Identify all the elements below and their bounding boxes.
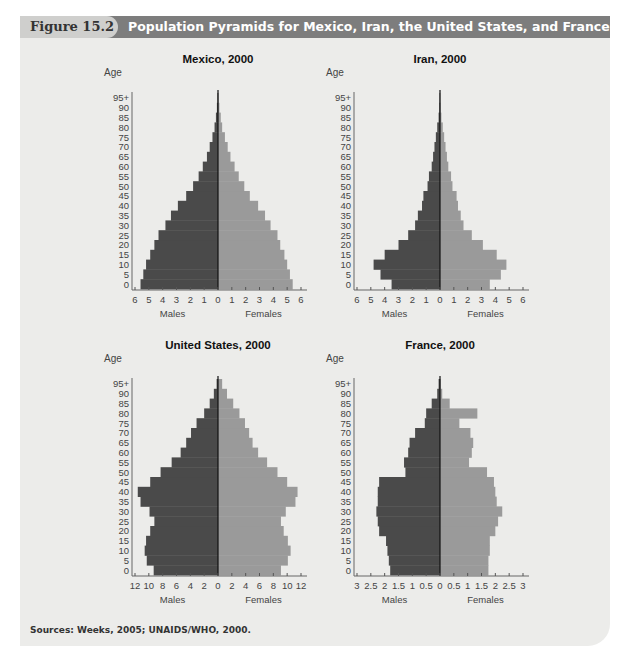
figure-label: Figure 15.2 (20, 16, 118, 38)
figure-title: Population Pyramids for Mexico, Iran, th… (128, 16, 610, 38)
age-tick-label: 50 (118, 467, 129, 478)
age-tick-label: 15 (340, 249, 351, 260)
female-bar (218, 142, 228, 152)
x-tick-label: 0 (215, 294, 220, 305)
male-bar (150, 526, 218, 536)
age-tick-label: 5 (124, 555, 129, 566)
male-bar (408, 448, 440, 458)
female-bar (440, 260, 506, 270)
male-bar (141, 497, 218, 507)
female-bar (440, 201, 458, 211)
age-tick-label: 30 (118, 506, 129, 517)
male-bar (210, 399, 218, 409)
age-tick-label: 60 (340, 161, 351, 172)
chart-mexico: Mexico, 2000Age0510152025303540455055606… (100, 48, 315, 324)
male-bar (146, 536, 218, 546)
female-bar (218, 279, 293, 289)
females-axis-label: Females (245, 594, 282, 605)
female-bar (440, 230, 472, 240)
x-tick-label: 0 (437, 580, 442, 591)
x-tick-label: 2 (410, 294, 415, 305)
female-bar (218, 408, 239, 418)
x-tick-label: 6 (257, 580, 262, 591)
y-axis-label: Age (104, 67, 122, 78)
x-tick-label: 8 (160, 580, 165, 591)
x-tick-label: 6 (520, 294, 525, 305)
age-tick-label: 50 (340, 467, 351, 478)
female-bar (218, 201, 258, 211)
males-axis-label: Males (160, 594, 186, 605)
age-tick-label: 45 (340, 190, 351, 201)
x-tick-label: 0 (215, 580, 220, 591)
x-tick-label: 2 (188, 294, 193, 305)
age-tick-label: 80 (118, 408, 129, 419)
female-bar (218, 536, 288, 546)
males-axis-label: Males (382, 308, 408, 319)
male-bar (212, 132, 218, 142)
age-tick-label: 95+ (335, 378, 352, 389)
age-tick-label: 40 (118, 200, 129, 211)
age-tick-label: 90 (340, 388, 351, 399)
x-tick-label: 3 (257, 294, 262, 305)
age-tick-label: 55 (340, 457, 351, 468)
age-tick-label: 95+ (113, 92, 130, 103)
x-tick-label: 6 (354, 294, 359, 305)
male-bar (150, 250, 218, 260)
x-tick-label: 3 (520, 580, 525, 591)
age-tick-label: 50 (118, 181, 129, 192)
female-bar (440, 279, 490, 289)
female-bar (218, 516, 281, 526)
age-tick-label: 75 (340, 418, 351, 429)
age-tick-label: 40 (118, 486, 129, 497)
age-tick-label: 15 (118, 535, 129, 546)
chart-title: United States, 2000 (165, 339, 270, 351)
age-tick-label: 65 (340, 437, 351, 448)
age-tick-label: 35 (340, 496, 351, 507)
age-tick-label: 35 (118, 496, 129, 507)
female-bar (218, 555, 288, 565)
age-tick-label: 20 (118, 239, 129, 250)
age-tick-label: 85 (340, 398, 351, 409)
x-tick-label: 6 (132, 294, 137, 305)
male-bar (426, 408, 440, 418)
age-tick-label: 50 (340, 181, 351, 192)
male-bar (171, 211, 218, 221)
male-bar (404, 457, 440, 467)
x-tick-label: 2.5 (364, 580, 377, 591)
female-bar (440, 546, 490, 556)
x-tick-label: 4 (493, 294, 498, 305)
male-bar (436, 132, 440, 142)
x-tick-label: 4 (243, 580, 248, 591)
x-tick-label: 1.5 (475, 580, 488, 591)
female-bar (218, 389, 227, 399)
male-bar (143, 269, 218, 279)
age-tick-label: 30 (118, 220, 129, 231)
male-bar (408, 230, 440, 240)
age-tick-label: 40 (340, 200, 351, 211)
females-axis-label: Females (467, 594, 504, 605)
age-tick-label: 10 (118, 259, 129, 270)
x-tick-label: 2 (493, 580, 498, 591)
age-tick-label: 65 (118, 437, 129, 448)
male-bar (434, 142, 440, 152)
male-bar (376, 506, 440, 516)
age-tick-label: 65 (340, 151, 351, 162)
x-tick-label: 3 (479, 294, 484, 305)
female-bar (440, 408, 477, 418)
males-axis-label: Males (160, 308, 186, 319)
x-tick-label: 4 (271, 294, 276, 305)
chart-title: Mexico, 2000 (183, 53, 254, 65)
x-tick-label: 2.5 (503, 580, 516, 591)
x-tick-label: 1.5 (392, 580, 405, 591)
x-tick-label: 6 (298, 294, 303, 305)
age-tick-label: 20 (340, 239, 351, 250)
male-bar (390, 565, 440, 575)
male-bar (378, 487, 440, 497)
female-bar (218, 122, 222, 132)
male-bar (405, 467, 440, 477)
male-bar (415, 428, 440, 438)
female-bar (218, 230, 277, 240)
age-tick-label: 85 (118, 112, 129, 123)
female-bar (440, 162, 448, 172)
male-bar (214, 389, 218, 399)
